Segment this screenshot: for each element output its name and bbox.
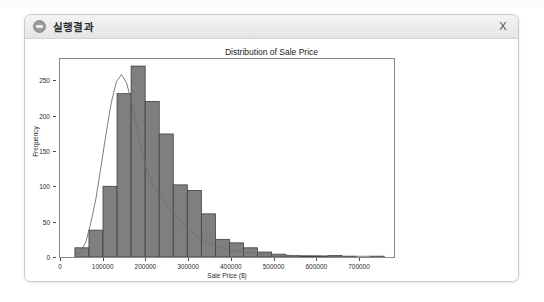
x-axis: 0100000200000300000400000500000600000700… [59,258,395,280]
matplotlib-figure: Distribution of Sale Price Frequency 050… [25,39,518,281]
x-tick-label: 700000 [348,263,370,270]
y-tick-label: 250 [39,77,50,84]
y-tick-mark [53,222,56,223]
x-tick-label: 0 [58,263,62,270]
y-tick-mark [53,80,56,81]
y-axis: Frequency 050100150200250 [25,58,57,258]
x-tick-mark [359,258,360,261]
y-tick-label: 150 [39,147,50,154]
x-tick-mark [103,258,104,261]
x-tick-label: 100000 [92,263,114,270]
execution-result-dialog: 실행결과 X Distribution of Sale Price Freque… [24,14,519,282]
y-tick-mark [53,151,56,152]
y-tick-label: 200 [39,112,50,119]
kde-curve [60,59,394,257]
x-tick-label: 600000 [305,263,327,270]
plot-area [59,58,395,258]
y-tick-label: 100 [39,183,50,190]
y-tick-label: 50 [43,218,50,225]
x-tick-mark [145,258,146,261]
x-tick-mark [274,258,275,261]
x-tick-mark [316,258,317,261]
app-disc-icon [33,20,46,33]
x-tick-mark [231,258,232,261]
dialog-title: 실행결과 [53,19,94,34]
y-tick-mark [53,116,56,117]
screen: 실행결과 X Distribution of Sale Price Freque… [0,0,544,302]
chart-title: Distribution of Sale Price [25,47,518,57]
kde-line [75,75,385,257]
x-tick-mark [188,258,189,261]
x-tick-label: 500000 [263,263,285,270]
x-tick-label: 400000 [220,263,242,270]
dialog-titlebar: 실행결과 X [25,15,518,39]
x-tick-label: 200000 [135,263,157,270]
y-tick-label: 0 [46,254,50,261]
close-icon[interactable]: X [496,20,510,34]
x-tick-mark [60,258,61,261]
y-axis-label: Frequency [32,106,39,178]
y-tick-mark [53,257,56,258]
x-tick-label: 300000 [177,263,199,270]
background-band [0,0,544,8]
x-axis-label: Sale Price ($) [59,272,395,279]
y-tick-mark [53,186,56,187]
